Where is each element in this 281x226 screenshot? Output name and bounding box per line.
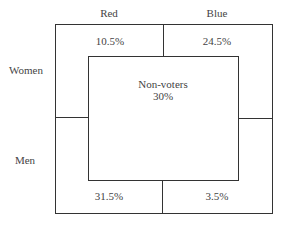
cell-women-red: 10.5% xyxy=(90,35,130,47)
left-divider xyxy=(55,117,89,118)
row-header-women: Women xyxy=(4,64,48,76)
column-header-red: Red xyxy=(94,7,124,19)
cell-women-blue: 24.5% xyxy=(197,35,237,47)
cell-men-red: 31.5% xyxy=(89,190,129,202)
top-divider xyxy=(163,24,164,57)
row-header-men: Men xyxy=(10,154,40,166)
non-voters-box xyxy=(88,56,239,181)
column-header-blue: Blue xyxy=(202,7,232,19)
cell-men-blue: 3.5% xyxy=(197,190,237,202)
bottom-divider xyxy=(162,180,163,213)
non-voters-label: Non-voters xyxy=(133,78,193,90)
non-voters-value: 30% xyxy=(143,90,183,102)
right-divider xyxy=(238,118,272,119)
